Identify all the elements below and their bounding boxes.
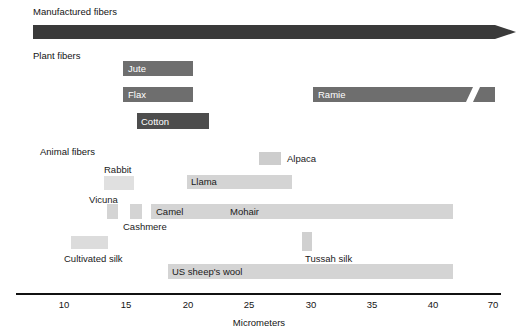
bar-label-cotton: Cotton [141, 116, 169, 127]
x-axis-tick-25: 25 [244, 299, 255, 310]
bar-cashmere [130, 204, 142, 219]
group-label-manufactured-fibers: Manufactured fibers [33, 6, 117, 17]
bar-tussah-silk [302, 232, 312, 251]
bar-manufactured-fibers [33, 24, 516, 40]
bar-label-cashmere: Cashmere [123, 221, 167, 232]
bar-vicuna [107, 204, 118, 219]
bar-label-us-sheeps-wool: US sheep's wool [172, 266, 242, 277]
bar-label-llama: Llama [191, 176, 217, 187]
bar-label-cultivated-silk: Cultivated silk [64, 253, 123, 264]
bar-cultivated-silk [71, 236, 108, 249]
bar-label-rabbit: Rabbit [104, 164, 131, 175]
x-axis-tick-20: 20 [183, 299, 194, 310]
bar-label-mohair: Mohair [230, 206, 259, 217]
x-axis-tick-15: 15 [121, 299, 132, 310]
bar-label-camel: Camel [156, 206, 183, 217]
x-axis-tick-10: 10 [59, 299, 70, 310]
bar-label-alpaca: Alpaca [287, 153, 316, 164]
bar-label-ramie: Ramie [318, 89, 345, 100]
bar-alpaca [259, 152, 281, 165]
x-axis-line [16, 293, 501, 295]
bar-label-jute: Jute [128, 63, 146, 74]
x-axis-tick-35: 35 [367, 299, 378, 310]
bar-rabbit [104, 176, 134, 190]
x-axis-title: Micrometers [233, 317, 285, 328]
bar-label-tussah-silk: Tussah silk [305, 253, 352, 264]
bar-label-flax: Flax [128, 89, 146, 100]
fiber-diameter-chart: Manufactured fibers Plant fibers Jute Fl… [0, 0, 521, 336]
x-axis-tick-40: 40 [428, 299, 439, 310]
x-axis-tick-70: 70 [488, 299, 499, 310]
group-label-animal-fibers: Animal fibers [40, 146, 95, 157]
x-axis-tick-30: 30 [306, 299, 317, 310]
group-label-plant-fibers: Plant fibers [33, 50, 81, 61]
